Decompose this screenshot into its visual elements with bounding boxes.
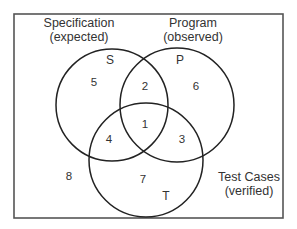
set-letter-t: T	[162, 189, 170, 203]
region-4-label: 4	[106, 133, 113, 145]
program-caption-line2: (observed)	[163, 30, 223, 44]
set-letter-s: S	[106, 53, 114, 67]
program-caption-line1: Program	[169, 16, 217, 30]
region-3-label: 3	[179, 133, 185, 145]
region-5-label: 5	[91, 76, 97, 88]
specification-caption-line2: (expected)	[49, 30, 108, 44]
region-7-label: 7	[140, 173, 146, 185]
test-cases-caption-line2: (verified)	[225, 184, 274, 198]
region-2-label: 2	[142, 80, 148, 92]
region-6-label: 6	[193, 80, 199, 92]
test-cases-caption-line1: Test Cases	[218, 170, 280, 184]
specification-caption-line1: Specification	[44, 16, 115, 30]
region-8-label: 8	[66, 170, 72, 182]
venn-diagram: Specification (expected) Program (observ…	[0, 0, 297, 229]
set-letter-p: P	[176, 53, 184, 67]
region-1-label: 1	[142, 118, 148, 130]
